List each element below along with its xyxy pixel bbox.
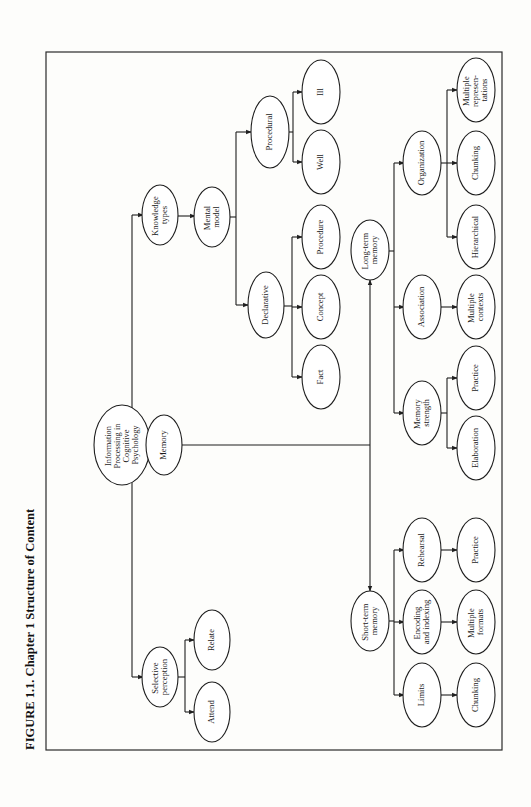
node-practice-short-term: Practice	[457, 518, 495, 582]
node-attend: Attend	[194, 682, 230, 742]
svg-text:Selective perception: Selective perception	[149, 658, 168, 695]
svg-text:Mental model: Mental model	[201, 204, 220, 231]
node-memory-strength: Memory strength	[403, 381, 441, 445]
node-label: Cognitive	[121, 429, 130, 462]
node-mental-model: Mental model	[194, 187, 230, 247]
node-hierarchical: Hierarchical	[457, 205, 495, 269]
structure-diagram: FIGURE 1.1. Chapter 1 Structure of Conte…	[0, 0, 531, 807]
node-encoding-indexing: Encoding and indexing	[403, 590, 441, 654]
node-long-term-memory: Long-term memory	[351, 220, 389, 280]
node-multiple-representations: Multiple represen- tations	[457, 58, 495, 122]
svg-text:Information Processing i: Information Processing in Cognitive Psyc…	[103, 422, 139, 469]
svg-text:Fact: Fact	[315, 369, 325, 384]
node-rehearsal: Rehearsal	[403, 518, 441, 582]
node-procedural: Procedural	[251, 96, 289, 168]
figure-title: FIGURE 1.1. Chapter 1 Structure of Conte…	[23, 508, 37, 750]
svg-text:Chunking: Chunking	[470, 677, 480, 712]
svg-text:Procedure: Procedure	[315, 219, 325, 254]
node-association: Association	[403, 275, 441, 339]
svg-text:Relate: Relate	[206, 629, 216, 651]
node-knowledge-types: Knowledge types	[142, 185, 178, 245]
svg-text:Limits: Limits	[416, 683, 426, 706]
node-multiple-contexts: Multiple contexts	[457, 275, 495, 339]
svg-text:Chunking: Chunking	[470, 145, 480, 180]
node-well: Well	[302, 130, 340, 194]
node-limits: Limits	[403, 663, 441, 727]
node-concept: Concept	[302, 275, 340, 339]
svg-text:Practice: Practice	[470, 536, 480, 564]
svg-text:Well: Well	[315, 153, 325, 170]
node-elaboration: Elaboration	[457, 416, 495, 480]
node-multiple-formats: Multiple formats	[457, 590, 495, 654]
svg-text:Memory: Memory	[158, 430, 168, 460]
svg-text:Organization: Organization	[416, 140, 426, 185]
svg-text:Practice: Practice	[470, 364, 480, 392]
svg-text:Multiple formats: Multiple formats	[465, 606, 484, 638]
node-relate: Relate	[194, 610, 230, 670]
node-ill: Ill	[302, 60, 340, 124]
node-chunking-organization: Chunking	[457, 131, 495, 195]
svg-text:Declarative: Declarative	[260, 285, 270, 325]
node-label: Psychology	[130, 425, 139, 465]
node-procedure: Procedure	[302, 205, 340, 269]
svg-text:Concept: Concept	[315, 292, 325, 321]
node-label: Information	[103, 425, 112, 466]
node-label: Processing in	[112, 423, 121, 469]
svg-text:Multiple contexts: Multiple contexts	[465, 291, 484, 323]
svg-text:Encoding and indexing: Encoding and indexing	[411, 599, 430, 644]
node-information-processing: Information Processing in Cognitive Psyc…	[94, 405, 150, 485]
node-memory: Memory	[146, 415, 182, 475]
svg-text:Short-term memory: Short-term memory	[359, 601, 378, 640]
svg-text:Hierarchical: Hierarchical	[470, 215, 480, 258]
svg-text:Procedural: Procedural	[264, 113, 274, 151]
node-declarative: Declarative	[248, 272, 284, 338]
svg-text:Memory strength: Memory strength	[411, 397, 430, 429]
node-fact: Fact	[302, 345, 340, 409]
node-practice-long-term: Practice	[457, 346, 495, 410]
node-chunking-short-term: Chunking	[457, 663, 495, 727]
svg-text:Association: Association	[416, 286, 426, 327]
node-short-term-memory: Short-term memory	[351, 591, 389, 651]
node-selective-perception: Selective perception	[142, 647, 178, 707]
svg-text:Attend: Attend	[206, 700, 216, 724]
svg-text:Long-term memory: Long-term memory	[359, 231, 378, 270]
node-organization: Organization	[403, 131, 441, 195]
svg-text:Elaboration: Elaboration	[470, 427, 480, 468]
svg-text:Ill: Ill	[315, 88, 325, 96]
svg-text:Rehearsal: Rehearsal	[416, 532, 426, 566]
